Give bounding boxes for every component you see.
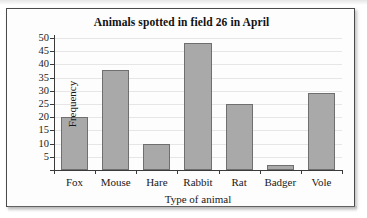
bar-rat xyxy=(226,104,253,170)
bar-hare xyxy=(143,144,170,170)
y-axis-tick xyxy=(50,51,55,52)
chart-title: Animals spotted in field 26 in April xyxy=(7,16,356,28)
x-axis-tick xyxy=(136,170,137,174)
y-axis-tick-label: 15 xyxy=(39,125,50,136)
x-axis-tick-label: Mouse xyxy=(101,177,131,188)
y-axis-tick xyxy=(50,104,55,105)
y-axis-tick xyxy=(50,144,55,145)
x-axis-tick xyxy=(260,170,261,174)
y-axis-tick xyxy=(50,117,55,118)
y-axis-tick xyxy=(50,38,55,39)
y-axis-tick-label: 35 xyxy=(39,72,50,83)
x-axis-tick-label: Rabbit xyxy=(183,177,212,188)
scan-edge-top xyxy=(0,0,367,5)
screenshot-root: Animals spotted in field 26 in April 510… xyxy=(0,0,367,218)
x-axis-tick xyxy=(95,170,96,174)
x-axis-tick xyxy=(219,170,220,174)
scan-edge-bottom xyxy=(8,206,357,212)
y-axis-title: Frequency xyxy=(66,54,78,154)
y-axis-tick-label: 20 xyxy=(39,112,50,123)
x-axis-tick xyxy=(54,170,55,174)
y-axis-line xyxy=(54,35,55,171)
x-axis-title: Type of animal xyxy=(54,193,342,205)
y-axis-tick xyxy=(50,64,55,65)
bar-vole xyxy=(308,93,335,170)
bar-badger xyxy=(267,165,294,170)
x-axis-line xyxy=(50,170,343,171)
x-axis-tick-label: Rat xyxy=(232,177,247,188)
plot-area: 5101520253035404550 FoxMouseHareRabbitRa… xyxy=(54,38,342,170)
chart-figure-frame: Animals spotted in field 26 in April 510… xyxy=(6,8,355,207)
x-axis-tick-label: Fox xyxy=(66,177,83,188)
y-axis-tick-label: 40 xyxy=(39,59,50,70)
y-axis-tick-label: 45 xyxy=(39,46,50,57)
bar-rabbit xyxy=(184,43,211,170)
y-axis-tick-label: 30 xyxy=(39,86,50,97)
x-axis-tick xyxy=(342,170,343,174)
x-axis-tick xyxy=(177,170,178,174)
y-axis-tick xyxy=(50,157,55,158)
y-axis-tick-label: 5 xyxy=(44,152,49,163)
y-axis-tick-label: 10 xyxy=(39,138,50,149)
y-axis-tick xyxy=(50,78,55,79)
x-axis-tick-label: Hare xyxy=(146,177,167,188)
y-axis-tick xyxy=(50,91,55,92)
y-axis-tick-label: 50 xyxy=(39,33,50,44)
x-axis-tick xyxy=(301,170,302,174)
y-axis-tick xyxy=(50,130,55,131)
x-axis-tick-label: Badger xyxy=(264,177,296,188)
gridline xyxy=(54,38,342,39)
y-axis-tick-label: 25 xyxy=(39,99,50,110)
bar-mouse xyxy=(102,70,129,170)
x-axis-tick-label: Vole xyxy=(311,177,331,188)
